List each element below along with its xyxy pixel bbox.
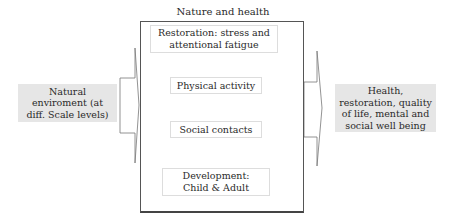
output-box-health: Health, restoration, quality of life, me…: [335, 84, 436, 132]
output-arrow: [304, 51, 322, 166]
input-arrow: [120, 48, 139, 163]
diagram-title: Nature and health: [140, 6, 306, 17]
nature-health-box: Restoration: stress and attentional fati…: [140, 21, 304, 213]
mediator-development: Development: Child & Adult: [162, 168, 270, 196]
mediator-restoration: Restoration: stress and attentional fati…: [150, 25, 278, 53]
mediator-physical-activity: Physical activity: [170, 77, 262, 94]
input-box-natural-environment: Natural enviroment (at diff. Scale level…: [18, 84, 117, 122]
mediator-social-contacts: Social contacts: [170, 121, 262, 138]
